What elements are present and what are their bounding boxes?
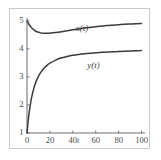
x-tick-label: 60 [91,135,100,145]
curve-labels-group: x(t)y(t) [75,23,100,69]
x-tick-label: 40 [69,135,78,145]
y-tick-label: 5 [19,15,23,25]
figure-root: 12345 020406080100 t x(t)y(t) [0,0,161,160]
x-axis-group: 020406080100 t [25,131,148,146]
y-tick-label: 1 [19,127,23,137]
curve-label-x: x(t) [75,23,89,33]
y-tick-labels: 12345 [19,15,24,137]
y-tick-label: 4 [19,43,24,53]
curve-label-y: y(t) [86,60,100,70]
x-tick-labels: 020406080100 [25,135,148,145]
series-group [27,21,142,133]
y-tick-label: 3 [19,71,23,81]
curve-series-y [27,51,142,133]
y-tick-label: 2 [19,99,23,109]
plot-canvas: 12345 020406080100 t x(t)y(t) [0,0,161,160]
x-tick-label: 0 [25,135,29,145]
x-axis-title: t [77,136,80,145]
x-tick-label: 100 [135,135,148,145]
x-tick-label: 80 [114,135,123,145]
x-tick-label: 20 [46,135,55,145]
